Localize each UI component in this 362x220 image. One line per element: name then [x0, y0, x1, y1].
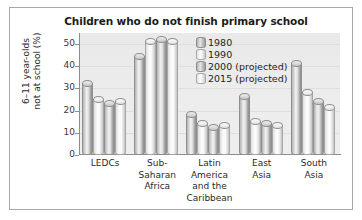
bar-cap	[250, 118, 261, 125]
bar-cap	[291, 60, 302, 67]
bar	[313, 100, 324, 155]
bar-cap	[145, 38, 156, 45]
bar-cap	[302, 89, 313, 96]
bar	[239, 95, 250, 155]
bar	[186, 113, 197, 155]
legend-item: 2015 (projected)	[196, 72, 287, 84]
legend-label: 1980	[208, 37, 232, 48]
bar-cap	[104, 100, 115, 107]
x-category-label: East Asia	[236, 158, 288, 181]
bar	[115, 100, 126, 155]
y-tick-label: 30	[55, 82, 75, 92]
bar	[145, 40, 156, 155]
bar	[272, 124, 283, 155]
bar	[134, 55, 145, 155]
bar	[261, 122, 272, 155]
y-tick-label: 0	[55, 149, 75, 159]
bar-cap	[115, 98, 126, 105]
chart-title: Children who do not finish primary schoo…	[28, 15, 344, 27]
bar-cap	[239, 93, 250, 100]
legend-swatch-icon	[196, 37, 206, 48]
y-tick-label: 20	[55, 105, 75, 115]
legend-label: 2015 (projected)	[208, 73, 287, 84]
bar	[219, 124, 230, 155]
legend-item: 1980	[196, 36, 287, 48]
bar	[104, 102, 115, 155]
bar	[291, 62, 302, 155]
bar-cap	[186, 111, 197, 118]
bar-cap	[261, 120, 272, 127]
bar-cap	[82, 80, 93, 87]
x-category-label: Sub- Saharan Africa	[131, 158, 183, 193]
chart-figure: Children who do not finish primary schoo…	[0, 0, 362, 220]
bar-cap	[208, 124, 219, 131]
y-tick-label: 50	[55, 38, 75, 48]
y-axis-label: 6–11 year-olds not at school (%)	[21, 17, 43, 125]
bar	[82, 82, 93, 155]
y-tick-mark	[75, 155, 79, 156]
bar	[324, 106, 335, 155]
legend-swatch-icon	[196, 49, 206, 60]
bar-cap	[219, 122, 230, 129]
bar	[197, 122, 208, 155]
y-tick-label: 10	[55, 127, 75, 137]
legend-item: 2000 (projected)	[196, 60, 287, 72]
bar-cap	[156, 36, 167, 43]
legend-label: 2000 (projected)	[208, 61, 287, 72]
bar-cap	[93, 96, 104, 103]
bar-cap	[167, 38, 178, 45]
bar-cap	[313, 98, 324, 105]
bar	[250, 120, 261, 155]
legend-label: 1990	[208, 49, 232, 60]
bar-group	[131, 33, 183, 155]
bar	[93, 98, 104, 155]
x-category-label: LEDCs	[79, 158, 131, 170]
x-category-label: South Asia	[288, 158, 340, 181]
bar-group	[288, 33, 340, 155]
bar	[167, 40, 178, 155]
bar-cap	[197, 120, 208, 127]
bar	[156, 38, 167, 155]
bar-cap	[324, 104, 335, 111]
bar-cap	[272, 122, 283, 129]
legend-swatch-icon	[196, 61, 206, 72]
x-category-label: Latin America and the Caribbean	[183, 158, 235, 204]
bar	[302, 91, 313, 155]
legend-item: 1990	[196, 48, 287, 60]
y-tick-label: 40	[55, 60, 75, 70]
bar-group	[79, 33, 131, 155]
legend-swatch-icon	[196, 73, 206, 84]
chart-legend: 198019902000 (projected)2015 (projected)	[196, 36, 287, 84]
bar	[208, 126, 219, 155]
bar-cap	[134, 53, 145, 60]
